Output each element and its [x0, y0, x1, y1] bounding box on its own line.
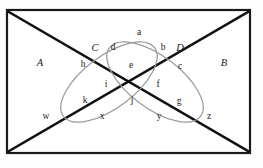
- region-label-i: i: [105, 80, 108, 90]
- region-label-k: k: [83, 96, 88, 106]
- region-label-c: c: [178, 62, 182, 72]
- set-label-c: C: [91, 43, 98, 54]
- region-label-g: g: [177, 97, 182, 107]
- venn-diagram-svg: [0, 0, 263, 168]
- region-label-f: f: [156, 80, 159, 90]
- region-label-e: e: [129, 61, 133, 71]
- venn-diagram: A B C D a d b h e c i f k j g w x y z: [0, 0, 263, 168]
- region-label-y: y: [157, 112, 162, 122]
- set-label-d: D: [176, 43, 184, 54]
- region-label-a: a: [137, 28, 141, 38]
- region-label-w: w: [43, 112, 50, 122]
- set-label-b: B: [221, 58, 227, 69]
- region-label-b: b: [161, 43, 166, 53]
- region-label-z: z: [207, 112, 211, 122]
- region-label-d: d: [111, 43, 116, 53]
- region-label-h: h: [81, 60, 86, 70]
- region-label-x: x: [100, 112, 105, 122]
- region-label-j: j: [131, 96, 134, 106]
- set-label-a: A: [37, 58, 43, 69]
